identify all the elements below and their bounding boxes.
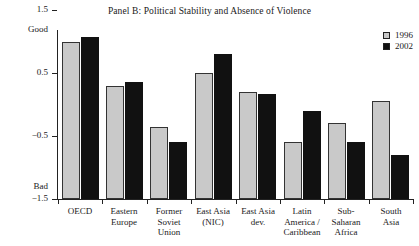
x-axis-tick [147, 199, 148, 204]
bar-2002 [81, 37, 99, 199]
legend-item-1996: 1996 [383, 30, 413, 41]
bar-2002 [125, 82, 143, 199]
x-axis-tick [413, 199, 414, 204]
bar-1996 [372, 101, 390, 199]
bar-2002 [347, 142, 365, 199]
bar-1996 [150, 127, 168, 199]
x-axis-tick [324, 199, 325, 204]
y-axis-tick [52, 10, 57, 11]
y-axis-tick-label: −1.5 [32, 193, 48, 203]
bar-1996 [239, 92, 257, 199]
y-axis-tick [52, 199, 57, 200]
y-axis-top-label: Good [28, 24, 48, 34]
bar-2002 [214, 54, 232, 199]
bar-2002 [258, 94, 276, 199]
chart-figure: Panel B: Political Stability and Absence… [0, 0, 419, 246]
x-axis-tick [369, 199, 370, 204]
x-axis-category-label: South Asia [365, 206, 417, 227]
x-axis-tick [191, 199, 192, 204]
y-axis-tick [52, 136, 57, 137]
x-axis-tick [102, 199, 103, 204]
bar-2002 [391, 155, 409, 199]
bar-1996 [62, 42, 80, 199]
y-axis-tick-label: 1.5 [37, 4, 48, 14]
x-axis-tick [58, 199, 59, 204]
y-axis-line [57, 30, 58, 200]
bar-1996 [328, 123, 346, 199]
legend-swatch-2002-icon [383, 43, 390, 50]
x-axis-line [57, 199, 413, 200]
y-axis-tick-label: −0.5 [32, 130, 48, 140]
bar-2002 [169, 142, 187, 199]
y-axis-tick-label: 0.5 [37, 67, 48, 77]
y-axis-bottom-label: Bad [34, 181, 49, 191]
y-axis-tick [52, 73, 57, 74]
bar-2002 [303, 111, 321, 199]
x-axis-tick [236, 199, 237, 204]
legend-label-1996: 1996 [395, 30, 413, 41]
chart-title: Panel B: Political Stability and Absence… [0, 6, 419, 16]
bar-1996 [106, 86, 124, 199]
x-axis-tick [280, 199, 281, 204]
chart-legend: 1996 2002 [383, 30, 413, 52]
bar-1996 [195, 73, 213, 199]
legend-swatch-1996-icon [383, 32, 390, 39]
bar-1996 [284, 142, 302, 199]
legend-label-2002: 2002 [395, 41, 413, 52]
legend-item-2002: 2002 [383, 41, 413, 52]
